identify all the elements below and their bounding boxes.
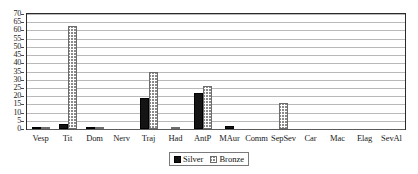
x-tick-label-car: Car	[297, 131, 324, 147]
category-group	[351, 14, 378, 129]
x-axis: VespTitDomNervTrajHadAntPMAurCommSepSevC…	[27, 131, 405, 147]
y-tick-mark	[21, 104, 24, 105]
x-tick-label-sepsev: SepSev	[270, 131, 297, 147]
x-tick-label-comm: Comm	[243, 131, 270, 147]
bar-bronze-vesp[interactable]	[41, 127, 50, 129]
bar-silver-antp[interactable]	[194, 93, 203, 129]
legend-label-bronze: Bronze	[219, 154, 244, 164]
y-tick-label: 60	[13, 26, 21, 34]
y-tick-label: 65	[13, 18, 21, 26]
legend: Silver Bronze	[0, 152, 418, 166]
bar-silver-tit[interactable]	[59, 124, 68, 129]
category-group	[243, 14, 270, 129]
category-group	[54, 14, 81, 129]
hatched-swatch-icon	[210, 156, 217, 163]
bar-bronze-dom[interactable]	[95, 127, 104, 129]
category-group	[189, 14, 216, 129]
x-tick-label-seval: SevAl	[378, 131, 405, 147]
y-tick-mark	[21, 14, 24, 15]
x-tick-label-traj: Traj	[135, 131, 162, 147]
category-group	[324, 14, 351, 129]
bar-silver-vesp[interactable]	[32, 127, 41, 129]
category-group	[81, 14, 108, 129]
x-tick-label-maur: MAur	[216, 131, 243, 147]
y-tick-label: 30	[13, 76, 21, 84]
bar-silver-maur[interactable]	[225, 126, 234, 129]
bar-bronze-had[interactable]	[171, 127, 180, 129]
y-tick-mark	[21, 129, 24, 130]
x-tick-label-nerv: Nerv	[108, 131, 135, 147]
bar-silver-dom[interactable]	[86, 127, 95, 129]
y-tick-mark	[21, 39, 24, 40]
y-tick-label: 55	[13, 35, 21, 43]
bar-bronze-traj[interactable]	[149, 72, 158, 130]
y-tick-label: 45	[13, 51, 21, 59]
y-tick-label: 20	[13, 92, 21, 100]
bar-bronze-sepsev[interactable]	[279, 103, 288, 129]
category-group	[270, 14, 297, 129]
y-tick-mark	[21, 113, 24, 114]
y-tick-mark	[21, 96, 24, 97]
y-tick-label: 40	[13, 59, 21, 67]
bar-bronze-antp[interactable]	[203, 86, 212, 129]
legend-item-silver[interactable]: Silver	[174, 154, 203, 164]
bar-silver-traj[interactable]	[140, 98, 149, 129]
category-group	[108, 14, 135, 129]
category-group	[297, 14, 324, 129]
y-tick-label: 35	[13, 68, 21, 76]
solid-black-swatch-icon	[174, 156, 181, 163]
legend-item-bronze[interactable]: Bronze	[210, 154, 244, 164]
y-tick-mark	[21, 80, 24, 81]
y-tick-label: 10	[13, 109, 21, 117]
x-tick-label-elag: Elag	[351, 131, 378, 147]
y-tick-label: 25	[13, 84, 21, 92]
x-tick-label-tit: Tit	[54, 131, 81, 147]
legend-box: Silver Bronze	[169, 152, 249, 166]
bar-bronze-tit[interactable]	[68, 26, 77, 130]
y-tick-label: 50	[13, 43, 21, 51]
y-tick-mark	[21, 88, 24, 89]
x-tick-label-mac: Mac	[324, 131, 351, 147]
x-tick-label-antp: AntP	[189, 131, 216, 147]
x-tick-label-vesp: Vesp	[27, 131, 54, 147]
category-group	[135, 14, 162, 129]
y-tick-mark	[21, 47, 24, 48]
x-tick-label-had: Had	[162, 131, 189, 147]
y-tick-mark	[21, 30, 24, 31]
gridline	[27, 129, 405, 130]
bar-chart: 0510152025303540455055606570 VespTitDomN…	[0, 0, 418, 174]
y-tick-label: 15	[13, 100, 21, 108]
y-tick-mark	[21, 72, 24, 73]
y-tick-mark	[21, 121, 24, 122]
y-tick-label: 70	[13, 10, 21, 18]
category-group	[162, 14, 189, 129]
legend-label-silver: Silver	[183, 154, 203, 164]
x-tick-label-dom: Dom	[81, 131, 108, 147]
category-group	[27, 14, 54, 129]
y-axis: 0510152025303540455055606570	[0, 13, 24, 130]
y-tick-mark	[21, 63, 24, 64]
y-tick-mark	[21, 55, 24, 56]
bars-layer	[27, 14, 405, 129]
category-group	[378, 14, 405, 129]
y-tick-mark	[21, 22, 24, 23]
category-group	[216, 14, 243, 129]
